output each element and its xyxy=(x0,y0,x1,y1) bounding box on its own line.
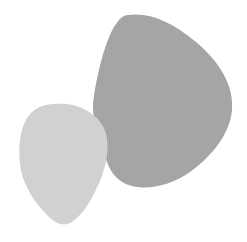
small-blob-shape xyxy=(19,104,107,225)
illustration-canvas xyxy=(0,0,247,242)
abstract-blob-illustration xyxy=(0,0,247,242)
large-blob-shape xyxy=(93,14,232,187)
